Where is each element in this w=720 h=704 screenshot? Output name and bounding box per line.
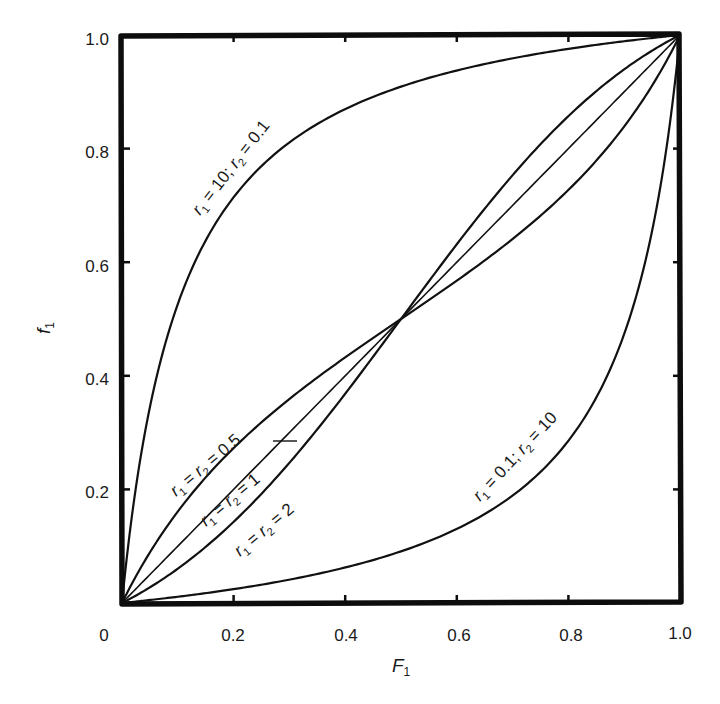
- curve-label-r1-r2-2: r1 = r2 = 2: [230, 499, 299, 561]
- y-tick-label: 0.2: [85, 483, 109, 502]
- x-tick-label: 0.6: [447, 626, 471, 645]
- y-axis-tick-labels: 0.2 0.4 0.6 0.8 1.0: [85, 30, 109, 502]
- x-tick-label: 1.0: [668, 624, 692, 643]
- y-tick-label: 1.0: [85, 30, 109, 49]
- x-tick-label: 0.8: [559, 626, 583, 645]
- curve-label-r1-0.1-r2-10: r1 = 0.1; r2 = 10: [469, 408, 562, 506]
- y-tick-label: 0.6: [85, 257, 109, 276]
- curve-label-r1-10-r2-0.1: r1 = 10; r2 = 0.1: [188, 117, 275, 220]
- y-axis-title: f1: [33, 322, 57, 334]
- x-axis-title: F1: [392, 655, 411, 679]
- x-tick-label: 0.4: [334, 626, 358, 645]
- x-tick-label: 0: [99, 626, 108, 645]
- x-tick-label: 0.2: [221, 626, 245, 645]
- copolymer-composition-chart: 0 0.2 0.4 0.6 0.8 1.0 0.2 0.4 0.6 0.8 1.…: [0, 0, 720, 704]
- y-tick-label: 0.4: [85, 370, 109, 389]
- curve-group: [122, 35, 680, 603]
- y-tick-label: 0.8: [85, 143, 109, 162]
- x-axis-tick-labels: 0 0.2 0.4 0.6 0.8 1.0: [99, 624, 692, 645]
